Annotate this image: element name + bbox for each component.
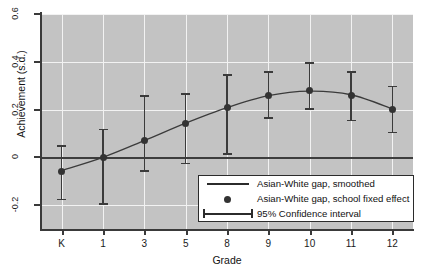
y-axis-tick	[34, 13, 41, 15]
error-bar-cap-upper	[347, 71, 356, 73]
error-bar-cap-upper	[223, 74, 232, 76]
error-bar	[226, 74, 228, 155]
error-bar-cap-lower	[305, 108, 314, 110]
error-bar-cap-lower	[99, 203, 108, 205]
y-axis-tick-label: 0.4	[11, 46, 20, 76]
x-axis-tick-label: 12	[379, 238, 405, 249]
error-bar	[309, 62, 311, 110]
y-axis-tick	[34, 204, 41, 206]
data-point	[265, 92, 272, 99]
chart-figure: Achievement (s.d.) Grade Asian-White gap…	[0, 0, 433, 274]
x-axis-tick	[227, 229, 229, 235]
y-axis-tick	[34, 109, 41, 111]
error-bar-cap-lower	[223, 153, 232, 155]
x-axis-tick-label: 1	[90, 238, 116, 249]
error-bar-cap-lower	[57, 199, 66, 201]
data-point	[141, 137, 148, 144]
x-axis-tick-label: 9	[255, 238, 281, 249]
error-bar	[144, 95, 146, 171]
error-bar	[102, 129, 104, 205]
error-bar-cap-upper	[181, 93, 190, 95]
error-bar	[185, 93, 187, 165]
x-axis-label: Grade	[41, 254, 413, 266]
x-axis-tick	[186, 229, 188, 235]
x-axis-tick-label: 3	[131, 238, 157, 249]
x-axis-tick	[62, 229, 64, 235]
error-bar-cap-upper	[140, 95, 149, 97]
x-axis-tick-label: 10	[297, 238, 323, 249]
y-axis-tick-label: -0.2	[11, 190, 20, 220]
x-axis-tick-label: 5	[173, 238, 199, 249]
error-bar-cap-upper	[264, 71, 273, 73]
error-bar-cap-lower	[140, 170, 149, 172]
data-point	[389, 106, 396, 113]
x-axis-tick-label: K	[49, 238, 75, 249]
data-point	[100, 154, 107, 161]
error-bar-cap-upper	[99, 129, 108, 131]
x-axis-tick	[351, 229, 353, 235]
x-axis-tick-label: 8	[214, 238, 240, 249]
data-point	[224, 104, 231, 111]
x-axis-tick-label: 11	[338, 238, 364, 249]
y-axis-tick	[34, 61, 41, 63]
x-axis-tick	[268, 229, 270, 235]
error-bar-cap-lower	[347, 120, 356, 122]
data-point	[348, 92, 355, 99]
x-axis-tick	[144, 229, 146, 235]
error-bar-cap-lower	[181, 163, 190, 165]
y-axis-tick-label: 0.6	[11, 0, 20, 29]
x-axis-tick	[310, 229, 312, 235]
error-bar-cap-lower	[264, 117, 273, 119]
error-bar-cap-upper	[57, 145, 66, 147]
y-axis-tick	[34, 156, 41, 158]
error-bar-cap-upper	[305, 62, 314, 64]
x-axis-tick	[103, 229, 105, 235]
error-bar-cap-upper	[388, 86, 397, 88]
error-bar-cap-lower	[388, 132, 397, 134]
x-axis-tick	[392, 229, 394, 235]
y-axis-tick-label: 0	[11, 142, 20, 172]
y-axis-tick-label: 0.2	[11, 94, 20, 124]
